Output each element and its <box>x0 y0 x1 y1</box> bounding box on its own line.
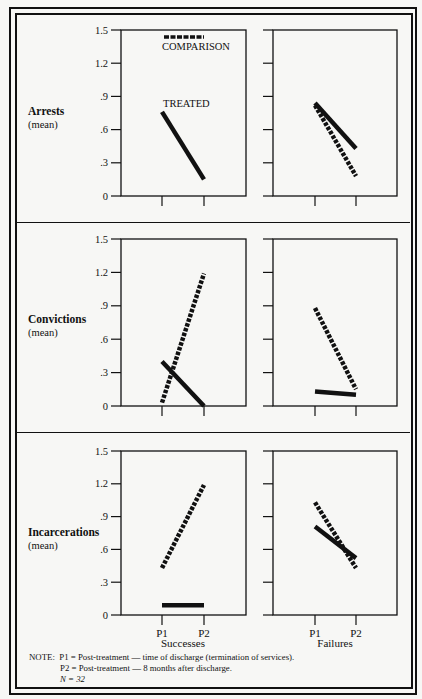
plot-frame <box>121 30 246 196</box>
plot-frame <box>121 451 246 615</box>
y-tick-label: 1.5 <box>95 234 108 245</box>
comparison-legend-label: COMPARISON <box>162 41 230 52</box>
y-tick-label: 1.2 <box>95 58 108 69</box>
note-line-3: N = 32 <box>29 674 294 685</box>
y-tick-label: 0 <box>103 401 108 412</box>
plot-frame <box>273 239 397 406</box>
note-line-1: NOTE: P1 = Post-treatment — time of disc… <box>29 652 294 663</box>
treated-line <box>162 112 204 180</box>
chart-grid: 0.3.6.91.21.50.3.6.91.21.50.3.6.91.21.5P… <box>0 0 422 699</box>
plot-frame <box>121 239 246 406</box>
y-tick-label: .3 <box>100 577 108 588</box>
comparison-line <box>315 502 356 568</box>
y-tick-label: .9 <box>100 300 108 311</box>
treated-line <box>162 361 204 406</box>
column-label-successes: Successes <box>143 637 223 649</box>
y-tick-label: .6 <box>100 544 108 555</box>
y-tick-label: 0 <box>103 191 108 202</box>
y-tick-label: .6 <box>100 124 108 135</box>
y-tick-label: .3 <box>100 157 108 168</box>
y-tick-label: 1.2 <box>95 478 108 489</box>
column-label-failures: Failures <box>295 637 375 649</box>
y-tick-label: 0 <box>103 610 108 621</box>
treated-legend-label: TREATED <box>163 98 210 109</box>
y-tick-label: 1.5 <box>95 25 108 36</box>
y-tick-label: .6 <box>100 334 108 345</box>
comparison-line <box>162 485 204 568</box>
y-tick-label: 1.5 <box>95 446 108 457</box>
figure-note: NOTE: P1 = Post-treatment — time of disc… <box>29 652 294 685</box>
y-tick-label: .3 <box>100 367 108 378</box>
y-tick-label: 1.2 <box>95 267 108 278</box>
plot-frame <box>273 30 397 196</box>
note-line-2: P2 = Post-treatment — 8 months after dis… <box>29 663 294 674</box>
treated-line <box>315 392 356 395</box>
comparison-line <box>315 308 356 389</box>
y-tick-label: .9 <box>100 511 108 522</box>
y-tick-label: .9 <box>100 91 108 102</box>
